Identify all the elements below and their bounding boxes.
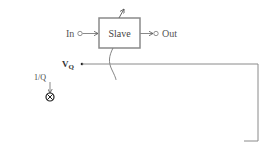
in-port-icon (78, 31, 82, 35)
in-label: In (66, 28, 74, 39)
vref-branch-line (46, 97, 50, 143)
inv-q-label: 1/Q (34, 73, 46, 82)
out-port-icon (154, 31, 158, 35)
vq-label: VQ (62, 59, 75, 71)
slave-block: Slave (99, 18, 140, 48)
out-label: Out (162, 28, 177, 39)
slave-tuning-arrow-icon (119, 9, 124, 18)
q-tuning-block-diagram: Slave In Out VQ 1/Q (0, 0, 274, 164)
slave-label: Slave (108, 28, 131, 39)
